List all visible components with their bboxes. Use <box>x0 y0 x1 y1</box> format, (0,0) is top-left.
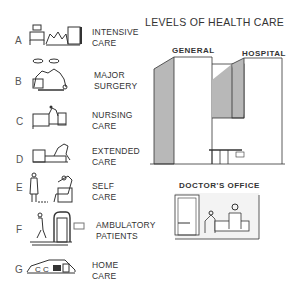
diagram-title: LEVELS OF HEALTH CARE <box>145 16 284 28</box>
level-label-a: INTENSIVE CARE <box>92 27 139 49</box>
icu-room-icon <box>28 24 83 48</box>
level-letter-a: A <box>15 35 22 46</box>
level-letter-c: C <box>16 116 23 127</box>
level-label-f: AMBULATORY PATIENTS <box>96 220 156 242</box>
level-letter-g: G <box>15 264 23 275</box>
level-label-d: EXTENDED CARE <box>92 146 140 168</box>
doctors-office-illustration <box>175 193 259 243</box>
level-label-g: HOME CARE <box>92 260 118 282</box>
level-letter-d: D <box>16 154 23 165</box>
level-label-c: NURSING CARE <box>92 110 133 132</box>
house-icon: C C <box>25 256 79 274</box>
level-letter-f: F <box>16 224 22 235</box>
office-label: DOCTOR'S OFFICE <box>179 181 260 190</box>
level-letter-b: B <box>15 76 22 87</box>
extended-care-bed-icon <box>32 142 72 164</box>
self-care-icon <box>28 172 74 204</box>
level-label-b: MAJOR SURGERY <box>94 70 137 92</box>
nursing-bed-icon <box>32 104 68 130</box>
hospital-building-illustration <box>150 50 285 165</box>
level-label-e: SELF CARE <box>92 181 116 203</box>
operating-room-icon <box>30 57 72 95</box>
ambulatory-entrance-icon <box>28 212 88 246</box>
level-letter-e: E <box>16 182 23 193</box>
